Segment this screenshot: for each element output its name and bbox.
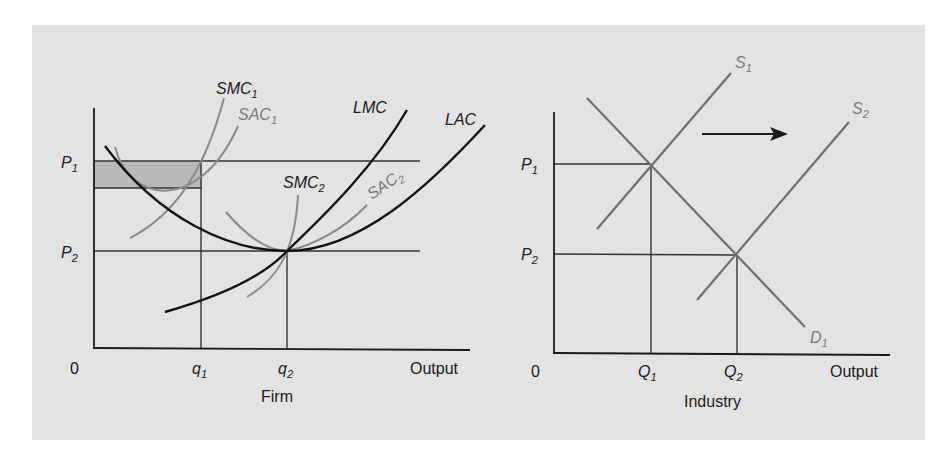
firm-chart: P1 P2 0 q1 q2 Output Firm SMC1 SAC1 LMC … [61,80,485,405]
firm-p2-label: P2 [61,244,78,264]
firm-origin-label: 0 [70,360,79,377]
smc2-curve [247,195,298,297]
industry-origin-label: 0 [531,363,540,380]
industry-x-axis-label: Output [830,363,879,380]
firm-x-axis [93,348,470,350]
industry-p2-line [554,254,737,255]
industry-p2-label: P2 [521,246,538,266]
industry-q1-label: Q1 [638,363,657,383]
smc1-label: SMC1 [216,80,258,100]
sac2-label: SAC2 [364,166,407,205]
lmc-label: LMC [353,99,387,116]
lac-label: LAC [445,111,477,128]
firm-q2-label: q2 [278,360,293,380]
firm-q1-label: q1 [192,360,207,380]
industry-x-axis [553,353,890,355]
industry-title: Industry [684,393,741,410]
shift-arrow-icon [702,127,788,141]
firm-title: Firm [261,388,293,405]
s1-label: S1 [735,54,752,74]
industry-p1-label: P1 [521,156,538,176]
firm-p1-label: P1 [61,154,78,174]
long-run-equilibrium-diagram: P1 P2 0 q1 q2 Output Firm SMC1 SAC1 LMC … [0,0,950,465]
d1-label: D1 [810,329,828,349]
firm-x-axis-label: Output [410,360,459,377]
supply-s2-curve [697,122,849,300]
profit-area [94,161,202,188]
s2-label: S2 [852,100,869,120]
sac1-label: SAC1 [238,106,277,126]
industry-q2-label: Q2 [724,363,743,383]
supply-s1-curve [597,73,731,229]
smc2-label: SMC2 [283,174,325,194]
industry-chart: P1 P2 0 Q1 Q2 Output Industry S1 S2 D1 [521,54,890,410]
